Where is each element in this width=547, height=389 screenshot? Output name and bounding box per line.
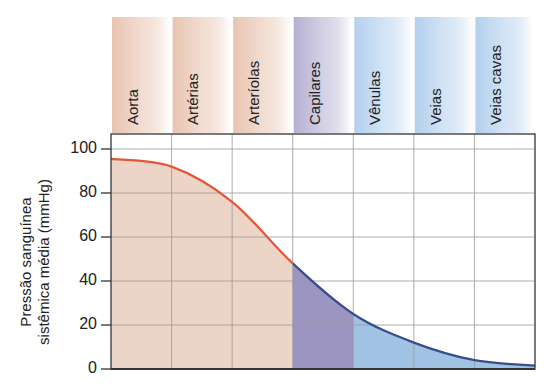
pressure-area-fills (111, 134, 535, 369)
blood-pressure-chart: AortaArtériasArteríolasCapilaresVênulasV… (0, 0, 547, 389)
segment-label: Vênulas (366, 71, 383, 125)
y-tick-label: 20 (79, 315, 97, 332)
y-tick-label: 40 (79, 271, 97, 288)
y-axis-title-line: sistêmica média (mmHg) (35, 179, 52, 345)
segment-header-arteríolas: Arteríolas (233, 17, 291, 133)
segment-label: Aorta (124, 88, 141, 125)
segment-header-aorta: Aorta (112, 17, 170, 133)
y-axis-title: Pressão sanguíneasistêmica média (mmHg) (17, 179, 52, 345)
y-tick-label: 0 (88, 359, 97, 376)
capillary-fill (293, 134, 354, 369)
y-axis-ticks: 020406080100 (70, 139, 111, 376)
venous-fill (353, 134, 535, 369)
segment-header-vênulas: Vênulas (354, 17, 412, 133)
segment-header-veias-cavas: Veias cavas (475, 17, 533, 133)
y-tick-label: 60 (79, 227, 97, 244)
segment-header-capilares: Capilares (294, 17, 352, 133)
segment-headers: AortaArtériasArteríolasCapilaresVênulasV… (112, 17, 533, 133)
arterial-fill (111, 134, 293, 369)
segment-header-veias: Veias (415, 17, 473, 133)
segment-label: Veias (427, 88, 444, 125)
segment-label: Capilares (306, 62, 323, 125)
segment-header-artérias: Artérias (173, 17, 231, 133)
y-axis-title-line: Pressão sanguínea (17, 197, 34, 327)
y-tick-label: 80 (79, 183, 97, 200)
y-tick-label: 100 (70, 139, 97, 156)
segment-label: Artérias (184, 73, 201, 125)
segment-label: Veias cavas (487, 45, 504, 125)
segment-label: Arteríolas (245, 61, 262, 125)
